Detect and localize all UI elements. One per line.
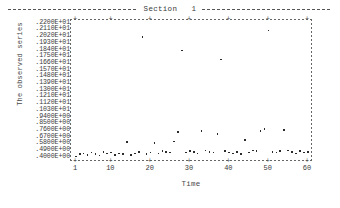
data-point xyxy=(150,152,152,154)
data-point xyxy=(173,141,175,143)
data-point xyxy=(303,152,305,154)
x-tick-label: 40 xyxy=(224,164,232,172)
data-point xyxy=(283,129,285,131)
data-point xyxy=(260,130,262,132)
data-point xyxy=(295,153,297,155)
plot-frame: ++++++++++++++ xyxy=(70,19,312,161)
data-point xyxy=(130,154,132,156)
data-point xyxy=(264,128,266,130)
x-axis-tick-labels: 1102030405060 xyxy=(70,164,312,174)
x-axis-title: Time xyxy=(70,180,312,189)
data-point xyxy=(134,153,136,155)
x-tick-mark: + xyxy=(266,16,270,23)
data-point xyxy=(162,150,164,152)
data-point xyxy=(193,151,195,153)
data-point xyxy=(103,151,105,153)
title-rule-right xyxy=(202,9,332,10)
data-point xyxy=(106,153,108,155)
data-point xyxy=(272,151,274,153)
data-point xyxy=(299,150,301,152)
x-tick-label: 10 xyxy=(106,164,114,172)
data-point xyxy=(291,151,293,153)
data-point xyxy=(177,131,179,133)
y-axis-title: The observed series xyxy=(16,18,24,110)
plot-border-left xyxy=(70,19,71,161)
data-point xyxy=(232,153,234,155)
data-point xyxy=(79,153,81,155)
data-point xyxy=(197,153,199,155)
data-point xyxy=(158,153,160,155)
data-point xyxy=(146,153,148,155)
chart-title: Section 1 xyxy=(138,5,203,14)
data-point xyxy=(248,152,250,154)
title-rule-left xyxy=(8,9,138,10)
data-point xyxy=(138,151,140,153)
data-point xyxy=(220,59,222,61)
data-point xyxy=(307,151,309,153)
data-point xyxy=(268,30,270,32)
data-point xyxy=(217,133,219,135)
chart-canvas: Section 1 The observed series .2200E+01.… xyxy=(0,0,340,208)
data-point xyxy=(91,152,93,154)
y-tick-label: .4000E+00 xyxy=(35,154,70,161)
data-point xyxy=(201,130,203,132)
data-point xyxy=(154,142,156,144)
x-tick-label: 20 xyxy=(146,164,154,172)
data-point xyxy=(236,151,238,153)
x-tick-mark: + xyxy=(305,16,309,23)
data-point xyxy=(126,141,128,143)
data-point xyxy=(244,139,246,141)
x-tick-mark: + xyxy=(148,16,152,23)
chart-title-row: Section 1 xyxy=(8,4,332,14)
data-point xyxy=(209,151,211,153)
data-point xyxy=(224,150,226,152)
x-tick-mark: + xyxy=(73,16,77,23)
x-tick-label: 50 xyxy=(263,164,271,172)
x-tick-label: 60 xyxy=(303,164,311,172)
data-point xyxy=(240,153,242,155)
x-tick-mark: + xyxy=(226,16,230,23)
data-point xyxy=(252,150,254,152)
data-point xyxy=(287,150,289,152)
data-point xyxy=(95,153,97,155)
x-tick-mark: + xyxy=(187,16,191,23)
x-tick-label: 30 xyxy=(185,164,193,172)
data-point xyxy=(256,150,258,152)
data-point xyxy=(181,50,183,52)
data-point xyxy=(205,150,207,152)
data-point xyxy=(122,153,124,155)
data-point xyxy=(276,152,278,154)
data-point xyxy=(114,154,116,156)
data-point xyxy=(110,152,112,154)
data-point xyxy=(279,150,281,152)
data-point xyxy=(185,152,187,154)
data-point xyxy=(99,155,101,157)
x-tick-label: 1 xyxy=(73,164,77,172)
data-point xyxy=(213,152,215,154)
data-point xyxy=(165,151,167,153)
data-point xyxy=(83,153,85,155)
data-point xyxy=(75,156,77,158)
y-axis-tick-labels: .2200E+01.2110E+01.2020E+01.1930E+01.184… xyxy=(24,22,70,158)
plot-border-right xyxy=(311,19,312,161)
data-point xyxy=(189,150,191,152)
data-point xyxy=(87,154,89,156)
data-point xyxy=(142,36,144,38)
x-tick-mark: + xyxy=(108,16,112,23)
data-point xyxy=(118,153,120,155)
data-point xyxy=(228,152,230,154)
data-point xyxy=(169,152,171,154)
